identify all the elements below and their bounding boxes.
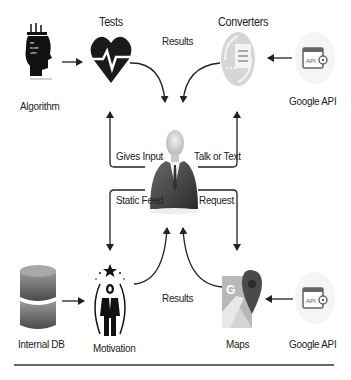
edge-label-request: Request	[199, 194, 234, 206]
label-maps: Maps	[226, 338, 249, 350]
svg-text:G: G	[226, 283, 235, 297]
node-google-api-top: API	[293, 30, 337, 90]
label-internal-db: Internal DB	[18, 338, 65, 350]
api-gear-icon: API	[293, 30, 337, 86]
document-converter-icon	[220, 30, 256, 88]
svg-text:0100: 0100	[30, 46, 38, 50]
label-converters: Converters	[218, 15, 268, 29]
label-tests: Tests	[99, 15, 123, 29]
svg-text:100: 100	[30, 51, 36, 55]
label-google-api-top: Google API	[289, 95, 336, 107]
edge-label-results-bottom: Results	[162, 292, 193, 304]
user-avatar	[148, 125, 200, 221]
label-algorithm: Algorithm	[20, 100, 59, 112]
label-google-api-bottom: Google API	[289, 338, 336, 350]
api-gear-icon: API	[293, 270, 337, 326]
svg-text:API: API	[306, 58, 316, 64]
node-maps: G	[222, 268, 262, 334]
svg-text:00: 00	[30, 41, 34, 45]
edge-label-talk-or-text: Talk or Text	[194, 150, 241, 162]
node-motivation	[90, 262, 130, 344]
database-icon	[18, 263, 58, 333]
brain-head-icon: 00 0100 100	[18, 22, 68, 82]
svg-text:API: API	[306, 298, 316, 304]
edge-label-static-feed: Static Feed	[116, 194, 163, 206]
node-algorithm: 00 0100 100	[18, 22, 68, 102]
edge-label-results-top: Results	[162, 35, 193, 47]
google-maps-icon: G	[222, 268, 262, 330]
motivated-person-icon	[90, 262, 130, 340]
edge-label-gives-input: Gives Input	[116, 150, 163, 162]
label-motivation: Motivation	[93, 342, 135, 354]
node-converters	[220, 30, 256, 92]
node-internal-db	[18, 263, 58, 337]
node-tests	[90, 33, 132, 89]
heartbeat-icon	[90, 33, 132, 85]
node-google-api-bottom: API	[293, 270, 337, 330]
